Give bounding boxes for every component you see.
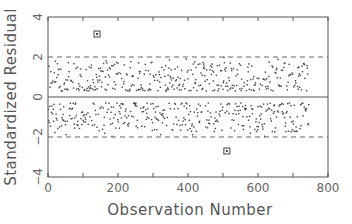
data-point (256, 131, 257, 132)
data-point (166, 90, 167, 91)
data-point (183, 84, 184, 85)
data-point (292, 129, 293, 130)
data-point (297, 86, 298, 87)
data-point (201, 111, 202, 112)
data-point (178, 120, 179, 121)
data-point (190, 90, 191, 91)
data-point (206, 90, 207, 91)
residual-scatter-chart: 0200400600800 −4−2024 Observation Number… (0, 0, 352, 224)
data-point (220, 103, 221, 104)
y-tick-label: 4 (31, 13, 45, 21)
data-point (150, 103, 151, 104)
data-point (195, 67, 196, 68)
data-point (84, 89, 85, 90)
data-point (297, 116, 298, 117)
data-point (176, 87, 177, 88)
data-point (56, 119, 57, 120)
data-point (73, 63, 74, 64)
data-point (99, 108, 100, 109)
data-point (127, 124, 128, 125)
data-point (74, 123, 75, 124)
data-point (209, 69, 210, 70)
data-point (64, 82, 65, 83)
data-point (71, 81, 72, 82)
data-point (101, 86, 102, 87)
data-point (93, 89, 94, 90)
data-point (252, 113, 253, 114)
data-point (53, 121, 54, 122)
data-point (187, 129, 188, 130)
data-point (133, 116, 134, 117)
data-point (153, 75, 154, 76)
data-point (168, 67, 169, 68)
data-point (262, 128, 263, 129)
data-point (223, 80, 224, 81)
data-point (94, 103, 95, 104)
data-point (267, 88, 268, 89)
data-point (233, 68, 234, 69)
data-point (125, 89, 126, 90)
data-point (238, 124, 239, 125)
data-point (210, 112, 211, 113)
data-point (67, 79, 68, 80)
data-point (152, 130, 153, 131)
data-point (266, 88, 267, 89)
data-point (287, 103, 288, 104)
data-point (196, 90, 197, 91)
data-point (283, 67, 284, 68)
data-point (184, 80, 185, 81)
data-point (237, 69, 238, 70)
data-point (133, 85, 134, 86)
data-point (230, 87, 231, 88)
data-point (285, 122, 286, 123)
data-point (110, 112, 111, 113)
data-point (267, 86, 268, 87)
data-point (56, 77, 57, 78)
data-point (58, 69, 59, 70)
data-point (249, 126, 250, 127)
data-point (157, 90, 158, 91)
data-point (241, 79, 242, 80)
data-point (49, 87, 50, 88)
data-point (102, 129, 103, 130)
data-point (213, 71, 214, 72)
data-point (256, 118, 257, 119)
data-point (108, 103, 109, 104)
data-point (162, 122, 163, 123)
data-point (294, 131, 295, 132)
data-point (144, 90, 145, 91)
data-point (236, 106, 237, 107)
y-tick-label: 2 (31, 53, 45, 61)
data-point (136, 125, 137, 126)
data-point (76, 115, 77, 116)
data-point (214, 117, 215, 118)
data-point (224, 112, 225, 113)
data-point (171, 79, 172, 80)
data-point (265, 71, 266, 72)
data-point (294, 105, 295, 106)
data-point (306, 108, 307, 109)
data-point (98, 130, 99, 131)
data-point (144, 126, 145, 127)
data-point (226, 82, 227, 83)
data-point (48, 66, 49, 67)
data-point (255, 121, 256, 122)
data-point (299, 87, 300, 88)
data-point (111, 65, 112, 66)
data-point (88, 90, 89, 91)
data-point (283, 104, 284, 105)
data-point (242, 116, 243, 117)
data-point (146, 113, 147, 114)
data-point (119, 105, 120, 106)
data-point (192, 134, 193, 135)
data-point (62, 90, 63, 91)
data-point (302, 102, 303, 103)
data-point (151, 61, 152, 62)
data-point (164, 109, 165, 110)
data-point (233, 120, 234, 121)
data-point (146, 119, 147, 120)
data-point (240, 65, 241, 66)
data-point (159, 81, 160, 82)
data-point (238, 106, 239, 107)
data-point (124, 122, 125, 123)
